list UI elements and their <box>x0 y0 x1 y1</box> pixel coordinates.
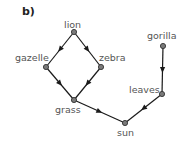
food-web-diagram: b) lion gazelle zebra grass sun gorilla … <box>0 0 186 142</box>
node-label-lion: lion <box>64 19 81 30</box>
node-leaves <box>159 91 164 96</box>
node-gorilla <box>160 43 165 48</box>
node-grass <box>71 97 76 102</box>
node-lion <box>71 29 76 34</box>
node-label-grass: grass <box>55 104 81 115</box>
arrowhead-icon <box>160 67 165 73</box>
node-label-gorilla: gorilla <box>147 30 177 41</box>
node-zebra <box>98 64 103 69</box>
node-gazelle <box>43 64 48 69</box>
graph-edges-and-nodes <box>0 0 186 142</box>
node-label-sun: sun <box>117 127 134 138</box>
node-label-gazelle: gazelle <box>15 52 49 63</box>
node-sun <box>122 120 127 125</box>
node-label-zebra: zebra <box>99 52 126 63</box>
node-label-leaves: leaves <box>129 84 160 95</box>
